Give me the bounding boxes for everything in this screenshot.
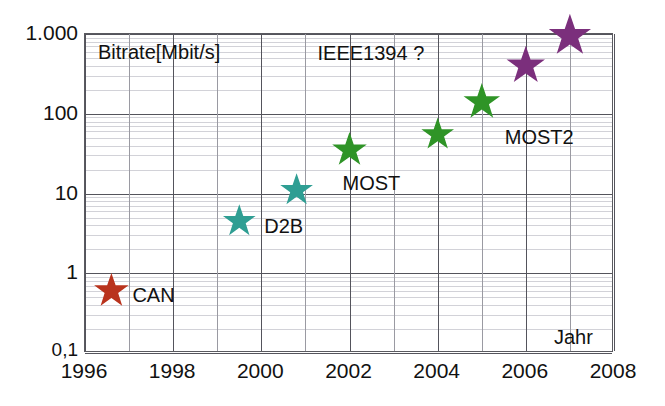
bitrate-vs-year-chart: 0,11101001.00019961998200020022004200620… xyxy=(0,0,665,406)
gridline-vertical xyxy=(526,34,527,351)
gridline-horizontal-major xyxy=(85,114,612,115)
gridline-horizontal-minor xyxy=(85,277,612,278)
gridline-horizontal-minor xyxy=(85,170,612,171)
gridline-vertical xyxy=(85,34,86,351)
gridline-horizontal-minor xyxy=(85,117,612,118)
gridline-horizontal-minor xyxy=(85,225,612,226)
data-point-label-most2: MOST2 xyxy=(505,127,574,147)
gridline-horizontal-major xyxy=(85,353,612,354)
gridline-vertical xyxy=(261,34,262,351)
gridline-horizontal-major xyxy=(85,34,612,35)
data-point-star-d2b xyxy=(222,204,256,238)
data-point-label-can: CAN xyxy=(132,285,174,305)
gridline-horizontal-minor xyxy=(85,90,612,91)
x-axis-tick-label: 2008 xyxy=(581,360,645,381)
gridline-horizontal-minor xyxy=(85,315,612,316)
gridline-horizontal-minor xyxy=(85,201,612,202)
gridline-vertical xyxy=(482,34,483,351)
x-axis-tick-label: 2002 xyxy=(317,360,381,381)
x-axis-title: Jahr xyxy=(554,327,593,347)
x-axis-tick-label: 1996 xyxy=(52,360,116,381)
gridline-horizontal-minor xyxy=(85,122,612,123)
x-axis-tick-label: 1998 xyxy=(140,360,204,381)
gridline-vertical xyxy=(305,34,306,351)
gridline-vertical xyxy=(438,34,439,351)
gridline-vertical xyxy=(570,34,571,351)
gridline-horizontal-minor xyxy=(85,329,612,330)
y-axis-tick-label: 100 xyxy=(43,102,78,123)
x-axis-tick-label: 2006 xyxy=(493,360,557,381)
gridline-vertical xyxy=(614,34,615,351)
data-point-label-d2b: D2B xyxy=(264,216,303,236)
gridline-horizontal-minor xyxy=(85,197,612,198)
ieee1394-annotation: IEEE1394 ? xyxy=(318,43,425,63)
gridline-horizontal-minor xyxy=(85,249,612,250)
gridline-horizontal-minor xyxy=(85,281,612,282)
x-axis-tick-label: 2000 xyxy=(228,360,292,381)
y-axis-tick-label: 10 xyxy=(55,182,78,203)
gridline-horizontal-minor xyxy=(85,218,612,219)
gridline-horizontal-major xyxy=(85,273,612,274)
gridline-vertical xyxy=(217,34,218,351)
gridline-horizontal-minor xyxy=(85,235,612,236)
gridline-horizontal-minor xyxy=(85,38,612,39)
gridline-horizontal-minor xyxy=(85,206,612,207)
gridline-vertical xyxy=(129,34,130,351)
y-axis-title: Bitrate[Mbit/s] xyxy=(98,42,220,62)
gridline-horizontal-minor xyxy=(85,211,612,212)
y-axis-tick-label: 1.000 xyxy=(25,22,78,43)
data-point-label-most: MOST xyxy=(343,173,401,193)
y-axis-tick-label: 1 xyxy=(66,261,78,282)
y-axis-tick-label: 0,1 xyxy=(52,340,78,359)
x-axis-tick-label: 2004 xyxy=(405,360,469,381)
